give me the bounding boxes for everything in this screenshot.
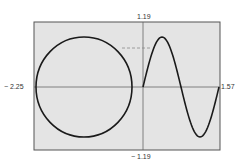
x-max-label: 1.57 xyxy=(221,83,235,91)
y-min-label: − 1.19 xyxy=(131,153,151,161)
graph-figure: 1.19 − 1.19 − 2.25 1.57 xyxy=(0,0,246,167)
x-min-label: − 2.25 xyxy=(4,83,24,91)
y-max-label: 1.19 xyxy=(137,13,151,21)
plot-canvas xyxy=(0,0,246,167)
